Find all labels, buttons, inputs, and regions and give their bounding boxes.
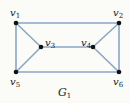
graph-caption: G1 (58, 86, 71, 100)
edge-v4-v6 (93, 47, 119, 72)
vertex-v2 (117, 21, 122, 26)
edge-v2-v4 (93, 23, 119, 47)
label-v3: v3 (45, 37, 55, 50)
vertex-v4 (91, 45, 96, 50)
vertex-v1 (14, 21, 19, 26)
label-v4: v4 (81, 37, 92, 50)
graph-diagram: v1v2v3v4v5v6 G1 (0, 0, 130, 103)
edge-v3-v5 (16, 47, 41, 72)
vertex-v6 (117, 70, 122, 75)
edges (16, 23, 119, 72)
vertex-v3 (39, 45, 44, 50)
vertex-v5 (14, 70, 19, 75)
label-v2: v2 (113, 7, 123, 20)
label-v1: v1 (10, 7, 20, 20)
vertex-labels: v1v2v3v4v5v6 (10, 7, 124, 89)
edge-v1-v3 (16, 23, 41, 47)
label-v5: v5 (10, 76, 20, 89)
label-v6: v6 (113, 76, 124, 89)
